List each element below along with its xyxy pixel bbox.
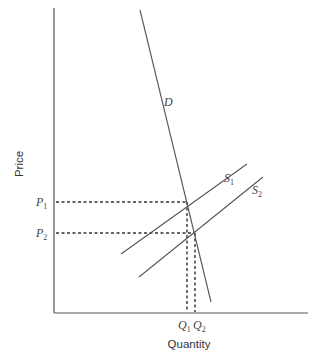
s2-label: S2 xyxy=(252,183,262,199)
y-axis-title: Price xyxy=(13,151,25,177)
x-axis-title: Quantity xyxy=(168,338,211,350)
p2-label: P2 xyxy=(35,226,47,242)
s1-label: S1 xyxy=(224,171,234,187)
demand-curve xyxy=(140,10,211,302)
supply-demand-diagram: D S1 S2 P1 P2 Q1 Q2 Quantity Price xyxy=(0,0,318,361)
demand-label: D xyxy=(163,95,173,109)
q1-label: Q1 xyxy=(178,318,191,334)
q2-label: Q2 xyxy=(193,318,206,334)
p1-label: P1 xyxy=(35,195,47,211)
